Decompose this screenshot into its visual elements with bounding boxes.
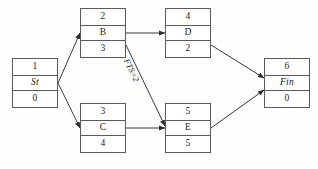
edge-start-c xyxy=(58,83,80,128)
node-c[interactable]: 3 C 4 xyxy=(80,103,126,153)
node-label: B xyxy=(81,25,125,41)
node-number: 1 xyxy=(13,59,57,75)
node-e[interactable]: 5 E 5 xyxy=(165,103,211,153)
node-label: C xyxy=(81,120,125,136)
node-label: Fin xyxy=(265,75,309,91)
diagram-canvas: 1 St 0 2 B 3 4 D 2 3 C 4 5 E 5 6 Fin 0 F… xyxy=(0,0,318,169)
node-number: 4 xyxy=(166,9,210,25)
edge-e-fin xyxy=(211,90,264,128)
node-fin[interactable]: 6 Fin 0 xyxy=(264,58,310,108)
node-duration: 5 xyxy=(166,136,210,152)
node-duration: 0 xyxy=(13,91,57,107)
node-d[interactable]: 4 D 2 xyxy=(165,8,211,58)
node-duration: 3 xyxy=(81,41,125,57)
node-number: 6 xyxy=(265,59,309,75)
edge-b-e xyxy=(126,45,165,126)
node-label: St xyxy=(13,75,57,91)
node-label: D xyxy=(166,25,210,41)
edge-d-fin xyxy=(211,45,264,78)
edge-start-b xyxy=(58,33,80,83)
node-number: 3 xyxy=(81,104,125,120)
node-duration: 2 xyxy=(166,41,210,57)
node-number: 5 xyxy=(166,104,210,120)
node-duration: 0 xyxy=(265,91,309,107)
node-b[interactable]: 2 B 3 xyxy=(80,8,126,58)
node-duration: 4 xyxy=(81,136,125,152)
node-label: E xyxy=(166,120,210,136)
node-start[interactable]: 1 St 0 xyxy=(12,58,58,108)
node-number: 2 xyxy=(81,9,125,25)
